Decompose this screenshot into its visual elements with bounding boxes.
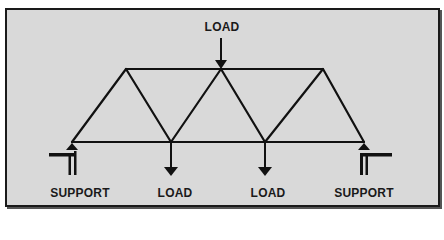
top-load-arrow	[215, 38, 227, 69]
support-right-label: SUPPORT	[334, 186, 393, 200]
web-members	[72, 69, 364, 142]
support-left-label: SUPPORT	[50, 186, 109, 200]
bottom-load-left-label: LOAD	[158, 186, 193, 200]
top-load-label: LOAD	[205, 20, 240, 34]
bottom-load-arrow-left	[164, 142, 178, 176]
left-support-icon	[49, 143, 78, 175]
bottom-load-arrow-right	[258, 142, 272, 176]
right-support-icon	[358, 143, 392, 175]
bottom-load-right-label: LOAD	[251, 186, 286, 200]
